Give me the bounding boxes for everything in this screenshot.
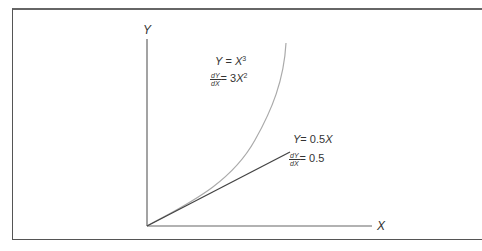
derivative-fraction: dYdX xyxy=(210,72,221,87)
cubic-equation-label: Y = X3 xyxy=(215,56,246,67)
cubic-curve xyxy=(147,43,286,226)
linear-line xyxy=(147,152,290,226)
y-axis-label: Y xyxy=(143,24,151,36)
x-axis-label: X xyxy=(377,220,385,232)
derivative-fraction: dYdX xyxy=(289,152,300,167)
cubic-derivative-label: dYdX= 3X2 xyxy=(210,72,247,87)
linear-derivative-label: dYdX= 0.5 xyxy=(289,152,324,167)
linear-equation-label: Y= 0.5X xyxy=(293,134,332,145)
